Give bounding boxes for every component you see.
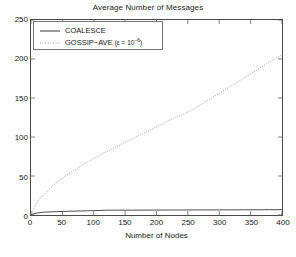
x-tick-label: 250: [181, 218, 194, 227]
y-tick-label: 150: [2, 93, 28, 102]
legend-item-gossip-ave: GOSSIP−AVE (ε = 10−6): [34, 36, 162, 49]
x-tick-label: 150: [118, 218, 131, 227]
chart-legend: COALESCE GOSSIP−AVE (ε = 10−6): [33, 21, 163, 50]
x-tick-label: 0: [28, 218, 32, 227]
y-tick-label: 100: [2, 133, 28, 142]
legend-label-gossip-name: GOSSIP−AVE: [65, 38, 115, 47]
legend-epsilon-open: (ε = 10: [115, 39, 135, 46]
x-axis-title: Number of Nodes: [30, 231, 283, 240]
legend-label-coalesce: COALESCE: [65, 27, 106, 35]
x-tick-label: 350: [245, 218, 258, 227]
legend-label-gossip-ave: GOSSIP−AVE (ε = 10−6): [65, 39, 142, 47]
series-line-gossip-ave: [31, 55, 282, 215]
x-tick-label: 300: [213, 218, 226, 227]
x-tick-label: 400: [276, 218, 289, 227]
x-tick-label: 100: [87, 218, 100, 227]
x-tick-label: 200: [150, 218, 163, 227]
chart-figure: Average Number of Messages 0501001502002…: [0, 0, 296, 257]
legend-solid-line-icon: [39, 26, 61, 36]
y-tick-label: 200: [2, 54, 28, 63]
legend-epsilon-close: ): [140, 39, 142, 46]
y-axis-tick-labels: 050100150200250: [0, 19, 28, 216]
legend-dotted-line-icon: [39, 38, 61, 48]
chart-title: Average Number of Messages: [0, 3, 296, 12]
y-tick-label: 0: [2, 212, 28, 221]
x-axis-tick-labels: 050100150200250300350400: [30, 216, 283, 232]
y-tick-label: 50: [2, 172, 28, 181]
x-tick-label: 50: [57, 218, 66, 227]
y-tick-label: 250: [2, 15, 28, 24]
